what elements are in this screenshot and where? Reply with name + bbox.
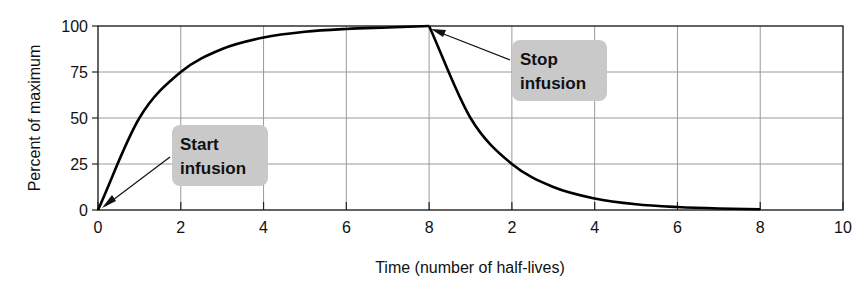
x-tick-labels: 02468246810 (94, 219, 852, 236)
x-tick-label: 0 (94, 219, 103, 236)
x-tick-label: 8 (756, 219, 765, 236)
x-tick-label: 6 (342, 219, 351, 236)
x-axis-label: Time (number of half-lives) (375, 259, 565, 276)
stop-infusion-line2: infusion (520, 74, 586, 93)
stop-infusion-line1: Stop (520, 50, 558, 69)
x-tick-label: 4 (590, 219, 599, 236)
y-tick-label: 50 (70, 110, 88, 127)
x-tick-label: 6 (673, 219, 682, 236)
x-tick-label: 8 (425, 219, 434, 236)
x-tick-label: 2 (176, 219, 185, 236)
y-tick-label: 100 (61, 18, 88, 35)
x-tick-label: 10 (834, 219, 852, 236)
infusion-chart: 02468246810 0255075100 Start infusion St… (0, 0, 866, 290)
y-tick-labels: 0255075100 (61, 18, 88, 219)
y-tick-label: 25 (70, 156, 88, 173)
x-tick-label: 2 (507, 219, 516, 236)
y-axis-label: Percent of maximum (26, 45, 43, 192)
start-infusion-callout: Start infusion (102, 125, 268, 208)
x-tick-label: 4 (259, 219, 268, 236)
y-tick-label: 0 (79, 202, 88, 219)
stop-infusion-arrow (436, 31, 510, 60)
start-infusion-line2: infusion (180, 159, 246, 178)
y-tick-label: 75 (70, 64, 88, 81)
start-infusion-line1: Start (180, 135, 219, 154)
